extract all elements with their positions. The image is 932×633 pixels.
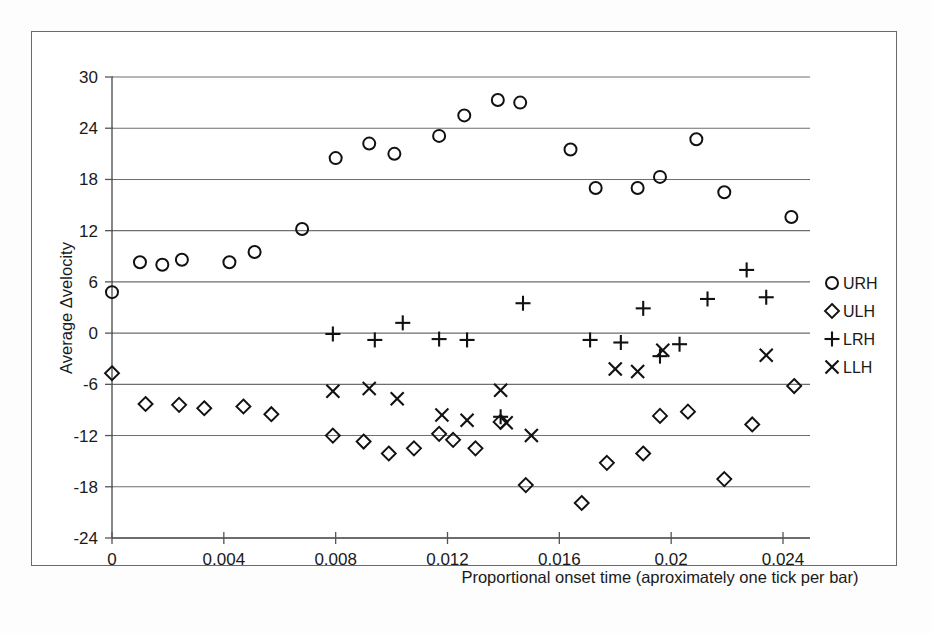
chart-legend[interactable]: URHULHLRHLLH [825,275,878,376]
data-point-lrh[interactable] [515,296,530,311]
data-point-llh[interactable] [656,344,669,357]
data-point-lrh[interactable] [395,315,410,330]
data-point-urh[interactable] [718,186,730,198]
data-point-ulh[interactable] [717,472,731,486]
data-point-ulh[interactable] [600,456,614,470]
data-point-urh[interactable] [590,182,602,194]
legend-label-urh[interactable]: URH [843,275,878,292]
data-point-ulh[interactable] [653,409,667,423]
data-point-ulh[interactable] [636,446,650,460]
x-tick-label: 0.02 [655,550,688,569]
data-point-ulh[interactable] [172,398,186,412]
data-point-lrh[interactable] [672,337,687,352]
data-point-urh[interactable] [223,256,235,268]
data-point-urh[interactable] [514,97,526,109]
data-point-llh[interactable] [631,365,644,378]
data-point-urh[interactable] [134,256,146,268]
legend-marker-ulh[interactable] [825,304,839,318]
data-point-urh[interactable] [785,211,797,223]
data-point-urh[interactable] [296,223,308,235]
data-point-lrh[interactable] [325,326,340,341]
data-point-urh[interactable] [249,246,261,258]
data-point-ulh[interactable] [139,397,153,411]
y-axis-tick-labels: -24-18-12-60612182430 [73,68,98,548]
data-point-lrh[interactable] [700,291,715,306]
data-point-lrh[interactable] [432,332,447,347]
data-point-urh[interactable] [632,182,644,194]
x-tick-label: 0.024 [762,550,805,569]
data-point-urh[interactable] [433,130,445,142]
series-lrh-points[interactable] [325,262,773,424]
data-point-urh[interactable] [363,138,375,150]
series-llh-points[interactable] [326,344,772,442]
data-point-urh[interactable] [458,109,470,121]
legend-marker-lrh[interactable] [825,332,840,347]
y-axis-title: Average Δvelocity [57,241,75,374]
data-point-llh[interactable] [461,414,474,427]
data-point-lrh[interactable] [613,335,628,350]
data-point-ulh[interactable] [197,401,211,415]
x-tick-label: 0.004 [203,550,246,569]
y-tick-label: -18 [73,478,98,497]
legend-marker-urh[interactable] [826,277,838,289]
data-point-urh[interactable] [388,148,400,160]
data-point-urh[interactable] [565,144,577,156]
data-point-lrh[interactable] [739,262,754,277]
data-point-ulh[interactable] [575,496,589,510]
y-tick-label: 18 [79,170,98,189]
data-point-lrh[interactable] [636,301,651,316]
y-tick-label: 30 [79,68,98,87]
y-tick-label: -12 [73,427,98,446]
data-point-urh[interactable] [492,94,504,106]
y-tick-label: 12 [79,222,98,241]
data-point-ulh[interactable] [787,379,801,393]
x-tick-label: 0.012 [426,550,469,569]
data-point-llh[interactable] [326,385,339,398]
data-point-llh[interactable] [760,349,773,362]
series-urh-points[interactable] [106,94,797,298]
data-point-urh[interactable] [176,254,188,266]
y-tick-label: 0 [89,324,98,343]
data-point-ulh[interactable] [357,435,371,449]
x-tick-label: 0.008 [314,550,357,569]
data-point-lrh[interactable] [759,290,774,305]
data-point-ulh[interactable] [681,405,695,419]
data-point-lrh[interactable] [583,332,598,347]
data-point-llh[interactable] [435,409,448,422]
data-point-ulh[interactable] [432,427,446,441]
data-point-lrh[interactable] [460,332,475,347]
data-point-lrh[interactable] [652,349,667,364]
y-tick-label: 6 [89,273,98,292]
x-tick-label: 0 [107,550,116,569]
data-point-ulh[interactable] [236,400,250,414]
data-point-lrh[interactable] [367,332,382,347]
data-point-ulh[interactable] [745,417,759,431]
data-point-urh[interactable] [330,152,342,164]
x-tick-label: 0.016 [538,550,581,569]
legend-marker-llh[interactable] [826,361,839,374]
x-axis-title: Proportional onset time (aproximately on… [461,568,858,586]
scatter-chart[interactable]: -24-18-12-60612182430 00.0040.0080.0120.… [0,0,932,633]
y-tick-label: 24 [79,119,98,138]
data-point-urh[interactable] [690,133,702,145]
gridlines-group [112,77,810,538]
series-ulh-points[interactable] [105,366,801,510]
legend-label-llh[interactable]: LLH [843,359,872,376]
x-axis-tick-labels: 00.0040.0080.0120.0160.020.024 [107,550,804,569]
y-tick-label: -24 [73,529,98,548]
data-point-ulh[interactable] [382,446,396,460]
data-point-ulh[interactable] [407,441,421,455]
data-point-urh[interactable] [654,171,666,183]
figure-canvas: -24-18-12-60612182430 00.0040.0080.0120.… [0,0,932,633]
data-point-urh[interactable] [156,259,168,271]
legend-label-lrh[interactable]: LRH [843,331,875,348]
data-point-llh[interactable] [609,362,622,375]
data-point-llh[interactable] [391,392,404,405]
data-point-llh[interactable] [494,384,507,397]
data-point-ulh[interactable] [264,407,278,421]
data-point-ulh[interactable] [446,433,460,447]
data-point-ulh[interactable] [468,441,482,455]
data-point-ulh[interactable] [519,478,533,492]
legend-label-ulh[interactable]: ULH [843,303,875,320]
y-tick-label: -6 [83,375,98,394]
